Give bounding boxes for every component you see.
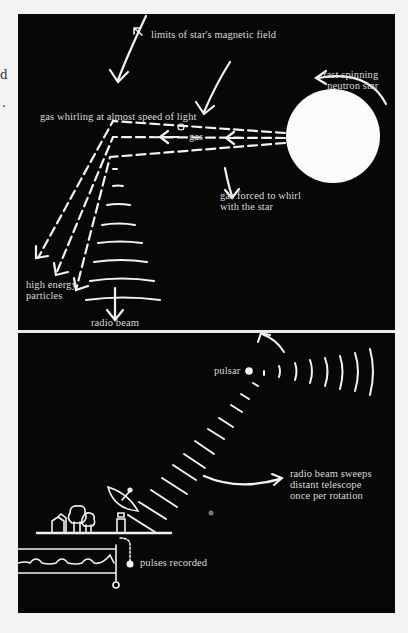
- label-sweeps: radio beam sweeps distant telescope once…: [290, 468, 372, 501]
- rotation-arrow: [262, 334, 284, 352]
- neutron-star-diagram-panel: limits of star's magnetic field fast spi…: [18, 14, 395, 330]
- label-particles: high energy particles: [26, 279, 77, 301]
- label-neutron-star: fast spinning neutron star: [323, 69, 378, 91]
- sweep-arrow: [204, 476, 280, 484]
- label-pulses-recorded: pulses recorded: [140, 557, 207, 568]
- pulsar-dot: [245, 367, 253, 375]
- label-magnetic-field: limits of star's magnetic field: [151, 29, 276, 40]
- gas-flow-arrow: [226, 132, 243, 144]
- recorder-dot: [127, 561, 134, 568]
- chart-recorder: [18, 545, 119, 588]
- pulsar-observation-panel: pulsar radio beam sweeps distant telesco…: [18, 333, 395, 613]
- radio-telescope-icon: [108, 487, 138, 532]
- neutron-star: [286, 89, 380, 183]
- house-icon: [52, 514, 66, 532]
- radio-beam-arrow: [107, 288, 123, 320]
- magnetic-field-arrow: [118, 16, 146, 80]
- magnetic-field-arrow: [204, 62, 230, 112]
- margin-text-fragment: d: [0, 68, 8, 82]
- label-pulsar: pulsar: [214, 365, 240, 376]
- pulse-trace: [18, 555, 114, 564]
- margin-text-fragment: .: [2, 96, 6, 110]
- trees-icon: [68, 506, 94, 532]
- label-gas-whirling: gas whirling at almost speed of light: [40, 111, 197, 122]
- gas-flow-arrow: [160, 131, 178, 143]
- gas-stream-line: [76, 143, 285, 290]
- label-gas: gas: [189, 131, 203, 142]
- label-gas-forced: gas forced to whirl with the star: [220, 190, 301, 212]
- signal-cable: [120, 538, 130, 561]
- speck: [209, 511, 214, 516]
- label-radio-beam: radio beam: [91, 317, 139, 328]
